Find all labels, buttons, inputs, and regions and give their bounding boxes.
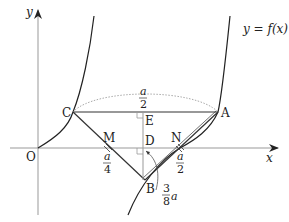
fraction-CA-den: 2 xyxy=(140,98,147,111)
fraction-DB-den: 8 xyxy=(163,195,170,208)
fraction-OM-num: a xyxy=(104,150,111,163)
x-axis-label: x xyxy=(266,151,273,165)
y-axis-label: y xyxy=(25,5,33,19)
point-E-label: E xyxy=(145,114,154,128)
point-N-label: N xyxy=(171,131,182,145)
right-angle-E xyxy=(137,112,143,118)
fraction-CA-num: a xyxy=(140,85,147,98)
fraction-OM-den: 4 xyxy=(104,163,111,176)
point-A-label: A xyxy=(220,106,230,120)
fraction-DN-num: a xyxy=(177,150,184,163)
point-B-label: B xyxy=(146,182,155,196)
fraction-DB-num: 3 xyxy=(163,182,170,195)
point-C-label: C xyxy=(62,106,71,120)
point-D-label: D xyxy=(145,134,155,148)
origin-label: O xyxy=(26,150,36,164)
curve-left-branch xyxy=(38,16,94,148)
right-angle-D xyxy=(137,148,143,154)
fraction-DN-den: 2 xyxy=(177,163,184,176)
fraction-DB-suffix: a xyxy=(171,190,178,203)
point-M-label: M xyxy=(103,131,115,145)
function-label: y = f(x) xyxy=(242,22,288,36)
diagram-canvas: y x O y = f(x) C A E D B M N a 2 a 4 a 2… xyxy=(0,0,289,222)
